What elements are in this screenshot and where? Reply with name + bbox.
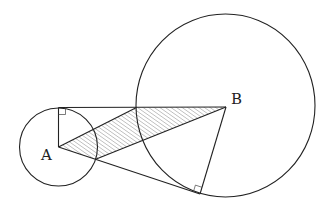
shaded-region: [59, 107, 227, 159]
circle-b: [136, 14, 315, 197]
segment-t-b: [59, 107, 227, 108]
label-a: A: [41, 148, 52, 163]
label-b: B: [231, 92, 242, 107]
geometry-figure: A B: [0, 0, 336, 214]
segment-a-c: [59, 147, 201, 194]
diagram-canvas: [0, 0, 336, 214]
segment-b-c: [200, 107, 226, 194]
